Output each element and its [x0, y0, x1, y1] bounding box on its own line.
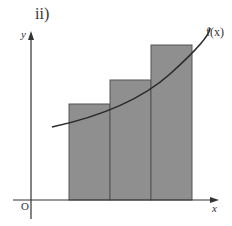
- rectangle-1: [69, 104, 110, 200]
- rectangles: [69, 45, 192, 200]
- x-axis-label: x: [211, 202, 217, 214]
- part-label: ii): [35, 5, 49, 23]
- function-label: f(x): [206, 25, 224, 39]
- rectangle-2: [110, 80, 151, 200]
- rectangle-3: [151, 45, 192, 200]
- y-axis-arrow-icon: [28, 31, 34, 40]
- y-axis-label: y: [20, 28, 26, 40]
- origin-label: O: [21, 200, 29, 212]
- riemann-sum-diagram: ii) f(x) y O x: [0, 0, 232, 226]
